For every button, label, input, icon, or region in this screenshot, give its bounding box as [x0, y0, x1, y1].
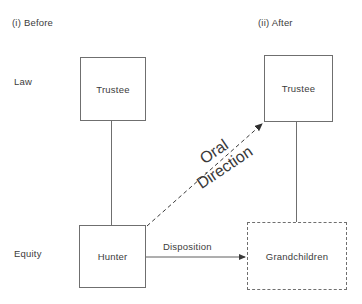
trust-before-after-diagram: (i) Before (ii) After Law Equity Trustee… — [0, 0, 362, 304]
edge-label-disposition: Disposition — [163, 241, 212, 252]
arrow-layer — [0, 0, 362, 304]
